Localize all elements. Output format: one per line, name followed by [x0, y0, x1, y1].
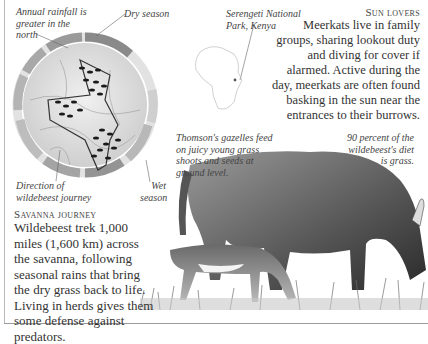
savanna-journey-heading: Savanna journey [14, 208, 154, 220]
wildebeest-diet-caption: 90 percent of the wildebeest's diet is g… [340, 132, 414, 167]
savanna-journey-panel: Savanna journey Wildebeest trek 1,000 mi… [14, 208, 154, 344]
savanna-journey-text: Wildebeest trek 1,000 miles (1,600 km) a… [14, 220, 154, 344]
gazelle-caption: Thomson's gazelles feed on juicy young g… [176, 132, 276, 178]
africa-inset-map [190, 40, 250, 120]
sun-lovers-heading: Sun lovers [270, 6, 420, 18]
sun-lovers-text: Meerkats live in family groups, sharing … [270, 18, 420, 123]
sun-lovers-panel: Sun lovers Meerkats live in family group… [270, 6, 420, 123]
